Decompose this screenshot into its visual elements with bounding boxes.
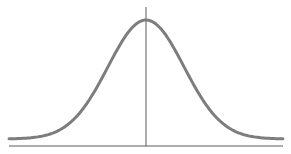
bell-curve-chart — [0, 0, 291, 154]
